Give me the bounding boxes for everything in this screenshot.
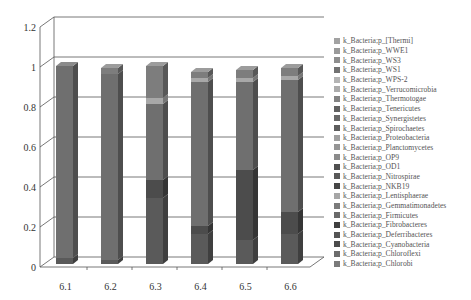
- legend-swatch-icon: [334, 251, 340, 257]
- legend-label: k_Bacteria;p_Tenericutes: [343, 104, 420, 113]
- bar-segment: [236, 240, 253, 264]
- y-tick-label: 0.6: [24, 142, 37, 153]
- legend-swatch-icon: [334, 173, 340, 179]
- legend-item: k_Bacteria;p_WWE1: [334, 46, 471, 56]
- bar-segment: [281, 68, 298, 76]
- legend-label: k_Bacteria;p_WPS-2: [343, 75, 408, 84]
- bar-segment: [146, 198, 163, 264]
- legend-swatch-icon: [334, 241, 340, 247]
- bar-segment: [101, 74, 118, 260]
- legend-item: k_Bacteria;p_[Thermi]: [334, 36, 471, 46]
- legend-item: k_Bacteria;p_Spirochaetes: [334, 123, 471, 133]
- x-axis-labels: 6.16.26.36.46.56.6: [59, 281, 297, 292]
- bar-segment: [281, 234, 298, 264]
- legend-item: k_Bacteria;p_Verrucomicrobia: [334, 84, 471, 94]
- bar-segment: [191, 82, 208, 226]
- y-tick-label: 0.8: [24, 102, 37, 113]
- bar-segment: [101, 260, 118, 264]
- legend-swatch-icon: [334, 203, 340, 209]
- legend-swatch-icon: [334, 261, 340, 267]
- legend-item: k_Bacteria;p_Fibrobacteres: [334, 220, 471, 230]
- legend-label: k_Bacteria;p_Thermotogae: [343, 94, 426, 103]
- legend-label: k_Bacteria;p_Nitrospirae: [343, 172, 420, 181]
- legend-swatch-icon: [334, 106, 340, 112]
- legend-swatch-icon: [334, 222, 340, 228]
- legend-label: k_Bacteria;p_Firmicutes: [343, 211, 418, 220]
- x-tick-label: 6.6: [284, 281, 297, 292]
- legend-label: k_Bacteria;p_Verrucomicrobia: [343, 85, 437, 94]
- bar-segment: [191, 226, 208, 234]
- bar-segment: [146, 66, 163, 98]
- legend-swatch-icon: [334, 232, 340, 238]
- legend-label: k_Bacteria;p_Chloroflexi: [343, 249, 421, 258]
- legend-item: k_Bacteria;p_Firmicutes: [334, 210, 471, 220]
- legend-label: k_Bacteria;p_Cyanobacteria: [343, 240, 429, 249]
- legend-item: k_Bacteria;p_Deferribacteres: [334, 230, 471, 240]
- legend-item: k_Bacteria;p_Chlorobi: [334, 259, 471, 269]
- y-tick-label: 0.2: [24, 222, 37, 233]
- x-tick-label: 6.1: [59, 281, 72, 292]
- x-tick-label: 6.3: [149, 281, 162, 292]
- legend-swatch-icon: [334, 115, 340, 121]
- legend-item: k_Bacteria;p_OD1: [334, 162, 471, 172]
- legend-swatch-icon: [334, 144, 340, 150]
- legend-label: k_Bacteria;p_WS1: [343, 65, 401, 74]
- legend-swatch-icon: [334, 125, 340, 131]
- legend-swatch-icon: [334, 164, 340, 170]
- legend-swatch-icon: [334, 48, 340, 54]
- legend-item: k_Bacteria;p_Gemmatimonadetes: [334, 201, 471, 211]
- legend-label: k_Bacteria;p_Chlorobi: [343, 259, 413, 268]
- legend-label: k_Bacteria;p_WS3: [343, 56, 401, 65]
- y-tick-label: 1: [31, 62, 36, 73]
- bar-segment: [56, 258, 73, 264]
- bar-segment: [146, 180, 163, 198]
- legend-swatch-icon: [334, 77, 340, 83]
- legend-swatch-icon: [334, 38, 340, 44]
- legend-item: k_Bacteria;p_WPS-2: [334, 75, 471, 85]
- x-tick-label: 6.4: [194, 281, 207, 292]
- legend-label: k_Bacteria;p_Proteobacteria: [343, 133, 429, 142]
- legend-swatch-icon: [334, 57, 340, 63]
- bar-segment: [146, 104, 163, 180]
- legend-item: k_Bacteria;p_Cyanobacteria: [334, 239, 471, 249]
- chart-bars: [56, 62, 303, 264]
- legend-swatch-icon: [334, 67, 340, 73]
- bar-segment: [236, 170, 253, 240]
- legend-label: k_Bacteria;p_OP9: [343, 153, 399, 162]
- bar-6.2: [101, 64, 123, 264]
- bar-segment: [281, 76, 298, 80]
- y-tick-label: 0.4: [24, 182, 37, 193]
- legend-swatch-icon: [334, 96, 340, 102]
- legend-swatch-icon: [334, 86, 340, 92]
- y-tick-label: 0: [31, 262, 36, 273]
- bar-6.3: [146, 62, 168, 264]
- legend-item: k_Bacteria;p_Nitrospirae: [334, 172, 471, 182]
- bar-6.6: [281, 64, 303, 264]
- legend-label: k_Bacteria;p_NKB19: [343, 182, 409, 191]
- bar-segment: [191, 72, 208, 78]
- legend-item: k_Bacteria;p_WS1: [334, 65, 471, 75]
- legend-label: k_Bacteria;p_WWE1: [343, 46, 408, 55]
- legend-label: k_Bacteria;p_Spirochaetes: [343, 124, 424, 133]
- legend-label: k_Bacteria;p_Lentisphaerae: [343, 191, 428, 200]
- legend-item: k_Bacteria;p_NKB19: [334, 181, 471, 191]
- legend-swatch-icon: [334, 212, 340, 218]
- bar-segment: [101, 68, 118, 74]
- chart-legend: k_Bacteria;p_[Thermi]k_Bacteria;p_WWE1k_…: [334, 36, 471, 269]
- legend-label: k_Bacteria;p_Deferribacteres: [343, 230, 432, 239]
- legend-label: k_Bacteria;p_[Thermi]: [343, 36, 413, 45]
- legend-item: k_Bacteria;p_Synergistetes: [334, 114, 471, 124]
- bar-segment: [281, 212, 298, 234]
- bar-segment: [236, 78, 253, 82]
- bar-segment: [236, 82, 253, 170]
- bar-6.4: [191, 68, 213, 264]
- legend-item: k_Bacteria;p_Proteobacteria: [334, 133, 471, 143]
- bar-segment: [191, 234, 208, 264]
- bar-segment: [191, 78, 208, 82]
- legend-swatch-icon: [334, 154, 340, 160]
- bar-6.1: [56, 62, 78, 264]
- legend-label: k_Bacteria;p_OD1: [343, 162, 400, 171]
- legend-item: k_Bacteria;p_Chloroflexi: [334, 249, 471, 259]
- bar-6.5: [236, 66, 258, 264]
- legend-label: k_Bacteria;p_Synergistetes: [343, 114, 426, 123]
